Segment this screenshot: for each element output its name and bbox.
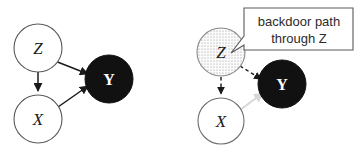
dag-canvas: Z X Y Z (0, 0, 361, 152)
node-x-right-label: X (215, 112, 227, 131)
edge-z-to-y-left (58, 62, 89, 74)
node-z-left-label: Z (33, 39, 43, 58)
node-z-left: Z (14, 24, 62, 72)
causal-dag-diagram: Z X Y Z (0, 0, 361, 152)
node-y-left: Y (85, 55, 133, 103)
node-y-right: Y (258, 60, 306, 108)
edge-x-to-y-right (240, 93, 263, 110)
edge-z-to-y-right (240, 66, 261, 79)
left-panel: Z X Y (14, 24, 133, 143)
node-z-right: Z (197, 28, 245, 76)
node-z-right-label: Z (216, 43, 226, 62)
node-x-left: X (14, 95, 62, 143)
node-y-left-label: Y (103, 71, 115, 88)
callout-line-1: backdoor path (258, 14, 340, 29)
node-y-right-label: Y (276, 76, 288, 93)
edge-x-to-y-left (58, 86, 88, 107)
callout-backdoor-path: backdoor path through Z (231, 8, 353, 53)
node-x-left-label: X (32, 110, 44, 129)
node-x-right: X (198, 98, 244, 144)
callout-line-2: through Z (271, 31, 327, 46)
right-panel: Z X Y backdoor path through Z (197, 8, 353, 144)
